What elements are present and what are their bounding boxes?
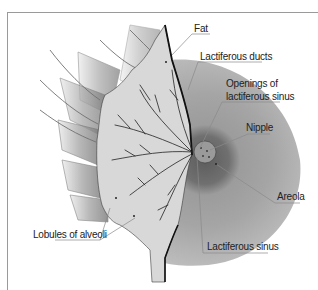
label-openings-line2: lactiferous sinus bbox=[226, 91, 294, 102]
label-nipple: Nipple bbox=[246, 122, 273, 133]
label-lactiferous-sinus: Lactiferous sinus bbox=[207, 241, 279, 252]
label-areola: Areola bbox=[277, 191, 305, 202]
label-lactiferous-ducts: Lactiferous ducts bbox=[200, 51, 272, 62]
label-fat: Fat bbox=[194, 23, 208, 34]
label-openings-line1: Openings of bbox=[226, 78, 278, 89]
label-lobules-of-alveoli: Lobules of alveoli bbox=[33, 229, 107, 240]
